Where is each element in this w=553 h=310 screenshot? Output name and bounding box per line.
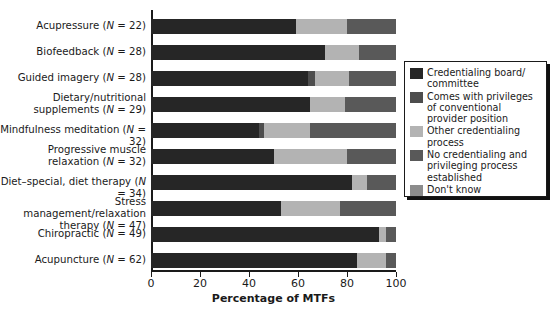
bar-segment [151, 227, 379, 242]
legend-item: Credentialing board/committee [410, 67, 542, 90]
x-tick-label: 40 [242, 277, 256, 290]
category-label: Guided imagery (N = 28) [0, 72, 146, 84]
bar-row [151, 19, 396, 34]
bar-row [151, 71, 396, 86]
bar-track [151, 253, 396, 268]
bar-segment [264, 123, 311, 138]
bar-track [151, 149, 396, 164]
bar-segment [310, 97, 344, 112]
bar-row [151, 201, 396, 216]
legend-swatch [410, 185, 423, 196]
bar-row [151, 123, 396, 138]
bar-track [151, 71, 396, 86]
bar-segment [151, 175, 352, 190]
bar-segment [151, 71, 308, 86]
bar-segment [296, 19, 347, 34]
x-tick-label: 100 [386, 277, 407, 290]
legend-label: No credentialing andprivileging processe… [427, 149, 527, 183]
bar-segment [347, 149, 396, 164]
bar-segment [340, 201, 396, 216]
x-axis-tick-labels: 020406080100 [0, 277, 553, 293]
bar-segment [151, 45, 325, 60]
bar-segment [386, 227, 396, 242]
bar-segment [379, 227, 386, 242]
bar-segment [281, 201, 340, 216]
bar-segment [151, 149, 274, 164]
bar-track [151, 19, 396, 34]
bar-segment [151, 97, 310, 112]
legend-item: Don't know [410, 184, 542, 196]
bar-segment [359, 45, 396, 60]
legend-item: Comes with privilegesof conventionalprov… [410, 91, 542, 125]
bar-segment [345, 97, 396, 112]
bar-row [151, 45, 396, 60]
bar-segment [357, 253, 386, 268]
x-axis-title: Percentage of MTFs [151, 292, 396, 305]
bar-row [151, 253, 396, 268]
bar-track [151, 97, 396, 112]
legend-label: Other credentialingprocess [427, 125, 520, 148]
legend-swatch [410, 126, 423, 137]
bar-track [151, 45, 396, 60]
bar-segment [310, 123, 396, 138]
x-tick-label: 80 [340, 277, 354, 290]
stacked-bar-chart: Acupressure (N = 22)Biofeedback (N = 28)… [0, 0, 553, 310]
bar-segment [315, 71, 349, 86]
bar-segment [308, 71, 315, 86]
category-axis-labels: Acupressure (N = 22)Biofeedback (N = 28)… [0, 10, 146, 272]
bar-track [151, 227, 396, 242]
legend-label: Don't know [427, 184, 481, 195]
category-label: Acupuncture (N = 62) [0, 254, 146, 266]
x-tick-label: 20 [193, 277, 207, 290]
bar-segment [274, 149, 348, 164]
legend-item: Other credentialingprocess [410, 125, 542, 148]
bar-segment [151, 253, 357, 268]
bar-row [151, 227, 396, 242]
category-label: Progressive musclerelaxation (N = 32) [0, 144, 146, 168]
bar-track [151, 175, 396, 190]
legend-swatch [410, 92, 423, 103]
bar-track [151, 201, 396, 216]
bar-segment [151, 19, 296, 34]
bar-segment [352, 175, 367, 190]
bar-row [151, 175, 396, 190]
legend-swatch [410, 150, 423, 161]
legend-item: No credentialing andprivileging processe… [410, 149, 542, 183]
bar-segment [151, 201, 281, 216]
category-label: Biofeedback (N = 28) [0, 46, 146, 58]
category-label: Acupressure (N = 22) [0, 20, 146, 32]
bar-row [151, 149, 396, 164]
x-tick-label: 60 [291, 277, 305, 290]
category-label: Chiropractic (N = 49) [0, 228, 146, 240]
bars-layer [151, 10, 396, 272]
bar-row [151, 97, 396, 112]
legend: Credentialing board/committeeComes with … [404, 61, 547, 197]
bar-track [151, 123, 396, 138]
legend-label: Credentialing board/committee [427, 67, 525, 90]
legend-label: Comes with privilegesof conventionalprov… [427, 91, 533, 125]
bar-segment [151, 123, 259, 138]
bar-segment [386, 253, 396, 268]
legend-swatch [410, 68, 423, 79]
x-tick-label: 0 [148, 277, 155, 290]
bar-segment [325, 45, 359, 60]
bar-segment [367, 175, 396, 190]
bar-segment [347, 19, 396, 34]
bar-segment [349, 71, 396, 86]
category-label: Dietary/nutritionalsupplements (N = 29) [0, 92, 146, 116]
